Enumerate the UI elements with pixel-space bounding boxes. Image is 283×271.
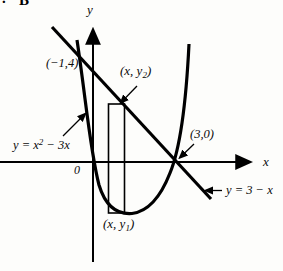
- x-axis-label: x: [263, 155, 269, 168]
- parabola-equation-tail: − 3x: [43, 138, 69, 152]
- parabola-equation-text: y = x: [13, 138, 39, 152]
- line-equation-label: y = 3 − x: [226, 184, 273, 197]
- strip-bottom-label-close: ): [130, 216, 134, 231]
- graph-figure: [0, 0, 283, 271]
- problem-marker-letter: B: [19, 0, 29, 8]
- parabola-equation-label: y = x2 − 3x: [13, 139, 70, 152]
- strip-top-label-close: ): [147, 63, 151, 78]
- origin-label: 0: [74, 164, 80, 176]
- strip-top-label: (x, y2): [120, 64, 151, 77]
- strip-bottom-label-text: (x, y: [103, 216, 125, 231]
- point-3-0-arrow: [180, 144, 194, 158]
- strip-rectangle: [109, 104, 125, 213]
- point-label-neg1-4: (−1,4): [46, 57, 78, 70]
- figure-canvas: . B y x 0 (−1,4) (x, y2) (3,0) (x, y1) y…: [0, 0, 283, 271]
- y-axis-label: y: [87, 3, 93, 16]
- strip-top-label-text: (x, y: [120, 63, 142, 78]
- strip-bottom-label: (x, y1): [103, 217, 134, 230]
- strip-top-arrow: [121, 86, 137, 103]
- problem-marker-dot: .: [2, 0, 6, 6]
- point-label-3-0: (3,0): [190, 128, 214, 141]
- parabola-equation-arrow: [63, 114, 85, 136]
